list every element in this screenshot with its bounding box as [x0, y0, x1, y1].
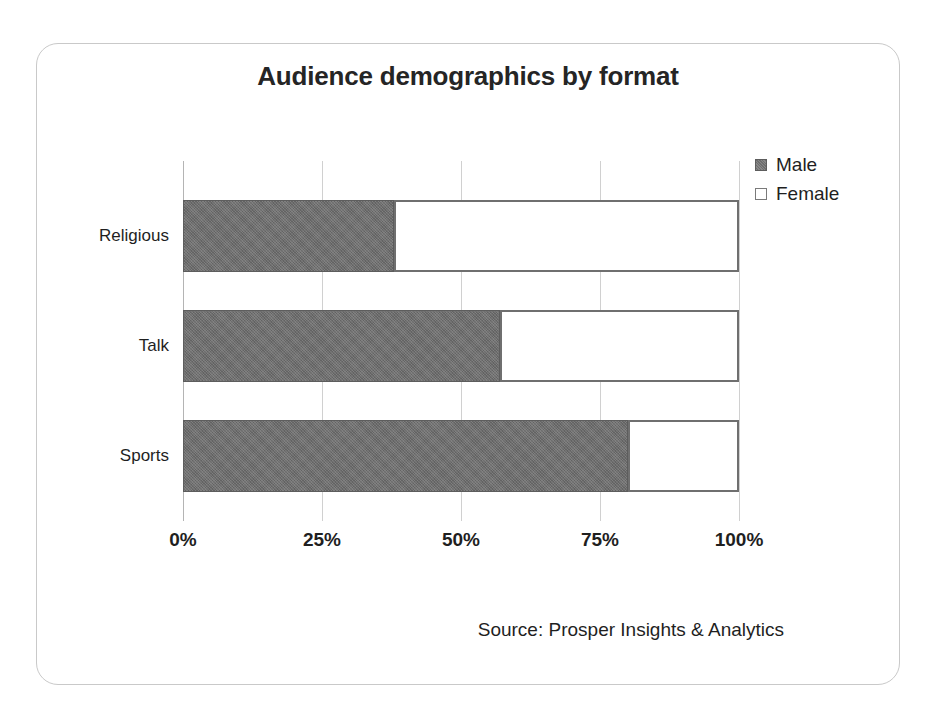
- plot-area: ReligiousTalkSports 0%25%50%75%100%: [183, 161, 739, 521]
- x-tick-100pct: 100%: [715, 529, 764, 551]
- bar-segment-talk-male: [183, 310, 500, 382]
- legend-label: Female: [776, 183, 839, 205]
- chart-legend: MaleFemale: [755, 154, 839, 212]
- figure-frame: Audience demographics by format Religiou…: [36, 43, 900, 685]
- legend-item-male[interactable]: Male: [755, 154, 839, 176]
- x-tick-0pct: 0%: [169, 529, 196, 551]
- x-tick-50pct: 50%: [442, 529, 480, 551]
- chart-title: Audience demographics by format: [37, 61, 899, 92]
- bar-row: Talk: [183, 310, 739, 382]
- x-tick-75pct: 75%: [581, 529, 619, 551]
- bar-segment-sports-male: [183, 420, 628, 492]
- bar-row: Sports: [183, 420, 739, 492]
- bar-segment-sports-female: [628, 420, 739, 492]
- bar-segment-talk-female: [500, 310, 739, 382]
- legend-item-female[interactable]: Female: [755, 183, 839, 205]
- gridline-100pct: [739, 161, 740, 521]
- legend-swatch-icon-female: [755, 188, 767, 200]
- category-label-religious: Religious: [99, 226, 169, 246]
- bar-segment-religious-male: [183, 200, 394, 272]
- category-label-sports: Sports: [120, 446, 169, 466]
- legend-swatch-icon-male: [755, 159, 767, 171]
- legend-label: Male: [776, 154, 817, 176]
- source-note: Source: Prosper Insights & Analytics: [478, 619, 784, 641]
- category-label-talk: Talk: [139, 336, 169, 356]
- bar-segment-religious-female: [394, 200, 739, 272]
- bar-series-group: ReligiousTalkSports: [183, 161, 739, 521]
- x-tick-25pct: 25%: [303, 529, 341, 551]
- bar-row: Religious: [183, 200, 739, 272]
